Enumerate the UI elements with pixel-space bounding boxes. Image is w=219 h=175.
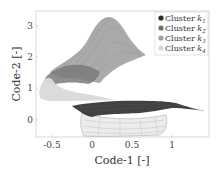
legend-marker-icon xyxy=(158,45,163,50)
cluster-scatter-chart: -0.5 0 0.5 1 Code-1 [-] 0 1 2 3 Code-2 [… xyxy=(0,0,219,175)
legend-marker-icon xyxy=(158,15,163,20)
y-tick-label: 1 xyxy=(27,83,33,93)
legend-marker-icon xyxy=(158,35,163,40)
svg-text:Cluster k3: Cluster k3 xyxy=(165,34,206,44)
legend-item-k1: Cluster k1 xyxy=(158,14,205,24)
x-tick-label: -0.5 xyxy=(43,140,61,150)
y-axis-label: Code-2 [-] xyxy=(10,46,23,101)
legend-marker-icon xyxy=(158,25,163,30)
svg-text:Cluster k1: Cluster k1 xyxy=(165,14,206,24)
legend-label: Cluster xyxy=(165,14,197,23)
x-tick-label: 0.5 xyxy=(125,140,140,150)
legend-item-k3: Cluster k3 xyxy=(158,34,206,44)
y-tick-label: 3 xyxy=(27,21,33,31)
legend-item-k4: Cluster k4 xyxy=(158,44,206,54)
x-axis-label: Code-1 [-] xyxy=(94,154,149,167)
x-axis: -0.5 0 0.5 1 Code-1 [-] xyxy=(43,135,175,167)
x-tick-label: 1 xyxy=(169,140,175,150)
legend-item-k2: Cluster k2 xyxy=(158,24,206,34)
svg-text:Cluster k2: Cluster k2 xyxy=(165,24,206,34)
legend-label: Cluster xyxy=(165,34,197,43)
svg-text:Cluster k4: Cluster k4 xyxy=(165,44,206,54)
x-tick-label: 0 xyxy=(89,140,95,150)
legend-label: Cluster xyxy=(165,44,197,53)
legend: Cluster k1 Cluster k2 Cluster k3 Cluster… xyxy=(155,12,208,55)
y-tick-label: 2 xyxy=(27,52,33,62)
y-tick-label: 0 xyxy=(27,115,33,125)
legend-label: Cluster xyxy=(165,24,197,33)
y-axis: 0 1 2 3 Code-2 [-] xyxy=(10,21,38,125)
